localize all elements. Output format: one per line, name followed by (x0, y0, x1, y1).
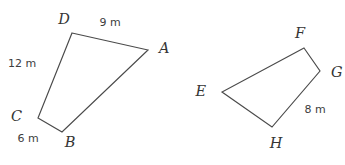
shape-quadrilateral-efgh: F G H E 8 m (194, 25, 342, 151)
side-label-gh: 8 m (304, 103, 325, 116)
vertex-label-b: B (64, 134, 76, 150)
vertex-label-f: F (294, 25, 306, 41)
vertex-label-g: G (331, 64, 343, 80)
vertex-label-a: A (157, 40, 169, 56)
figure-canvas: D A B C 9 m 12 m 6 m F G H E 8 m (0, 0, 345, 165)
shape-quadrilateral-abcd: D A B C 9 m 12 m 6 m (8, 11, 170, 150)
vertex-label-d: D (57, 11, 70, 27)
side-label-da: 9 m (99, 16, 120, 29)
vertex-label-h: H (269, 135, 283, 151)
vertex-label-e: E (194, 83, 206, 99)
geometry-figure: D A B C 9 m 12 m 6 m F G H E 8 m (0, 0, 345, 165)
side-label-cb: 6 m (17, 132, 38, 145)
side-label-cd: 12 m (8, 57, 36, 70)
vertex-label-c: C (11, 108, 22, 124)
quadrilateral-abcd-outline (38, 33, 148, 132)
